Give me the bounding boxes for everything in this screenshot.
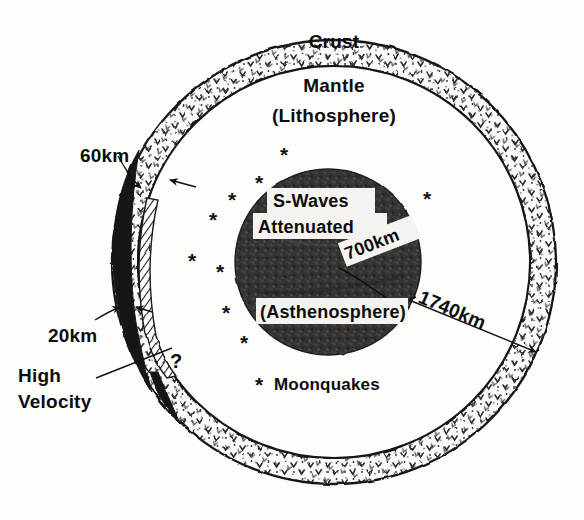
label-attenuated: Attenuated (258, 217, 354, 237)
moonquake-marker: * (209, 208, 218, 231)
moonquake-legend-icon: * (255, 373, 264, 396)
moonquake-marker: * (255, 171, 264, 194)
moonquake-marker: * (228, 188, 237, 211)
label-mantle: Mantle (303, 75, 364, 96)
label-60km: 60km (80, 145, 129, 166)
moonquake-marker: * (216, 260, 225, 283)
moonquake-marker: * (280, 143, 289, 166)
label-s-waves: S-Waves (273, 191, 349, 211)
label-high-velocity-line2: Velocity (18, 391, 92, 412)
moon-interior-figure: ********* Crust Mantle (Lithosphere) 60k… (0, 0, 584, 520)
moonquakes-legend: * Moonquakes (255, 373, 380, 396)
moonquake-marker: * (423, 187, 432, 210)
label-20km: 20km (48, 325, 97, 346)
s-waves-label-group: S-Waves (267, 188, 375, 213)
moonquake-marker: * (188, 249, 197, 272)
label-crust: Crust (309, 31, 360, 52)
moonquake-marker: * (222, 301, 231, 324)
moon-cross-section-svg: ********* Crust Mantle (Lithosphere) 60k… (0, 0, 584, 520)
moonquake-marker: * (240, 331, 249, 354)
label-asthenosphere: (Asthenosphere) (260, 302, 406, 322)
label-question-mark: ? (170, 350, 182, 372)
label-high-velocity-line1: High (18, 365, 61, 386)
leader-20km (95, 307, 120, 320)
asthenosphere-label-group: (Asthenosphere) (256, 298, 408, 324)
label-lithosphere: (Lithosphere) (272, 105, 396, 126)
moonquake-legend-label: Moonquakes (274, 375, 380, 394)
